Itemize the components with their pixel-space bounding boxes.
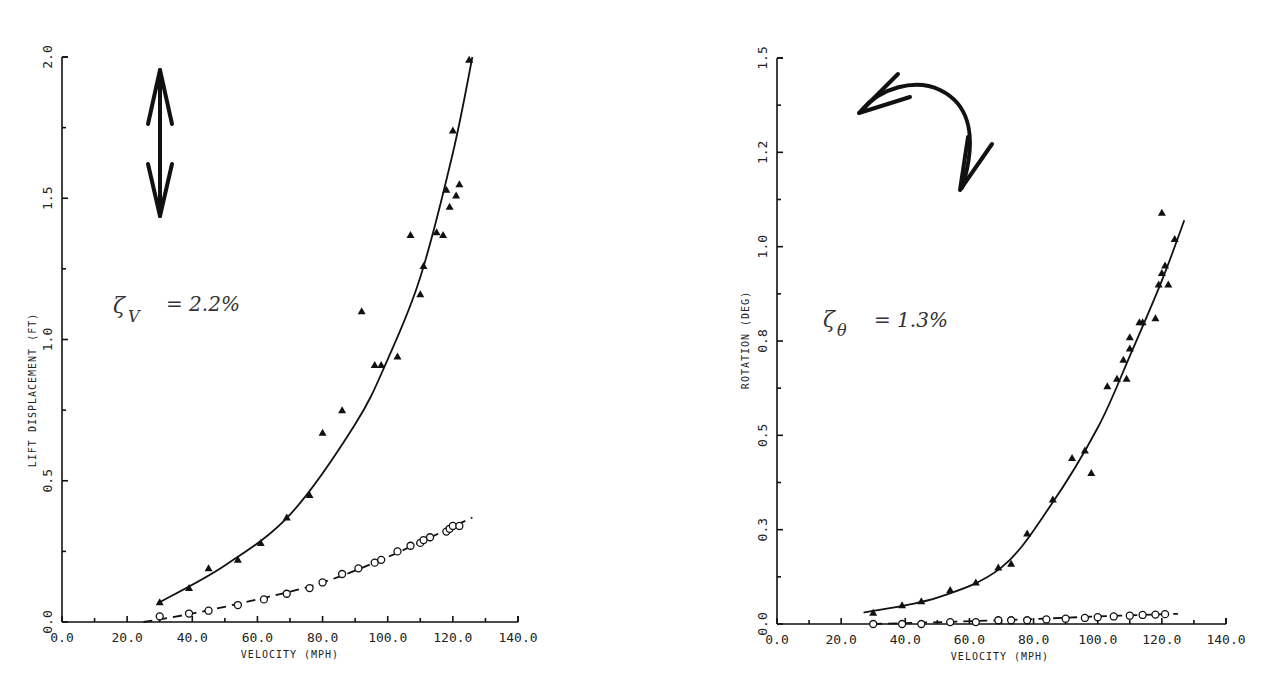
y-tick-label: 1.5 (755, 46, 770, 69)
right-damping-annotation: ζ θ = 1.3% (823, 307, 948, 340)
circle-marker (427, 534, 434, 541)
rotation-chart: 0.020.040.060.080.0100.0120.0140.0 0.00.… (740, 46, 1246, 662)
triangle-marker (1151, 314, 1159, 321)
fit-curve (160, 57, 473, 602)
triangle-marker (449, 126, 457, 133)
circle-marker (355, 565, 362, 572)
y-tick-label: 2.0 (40, 45, 55, 68)
svg-text:θ: θ (837, 321, 847, 340)
circle-marker (1008, 617, 1015, 624)
x-tick-label: 80.0 (1018, 632, 1049, 647)
right-y-axis-label: ROTATION (DEG) (740, 291, 751, 389)
y-tick-label: 1.0 (40, 328, 55, 351)
circle-marker (306, 585, 313, 592)
rotation-arrow-icon (859, 74, 992, 190)
triangle-marker (407, 231, 415, 238)
x-tick-label: 100.0 (368, 630, 407, 645)
y-tick-label: 1.5 (40, 187, 55, 210)
circle-marker (899, 621, 906, 628)
triangle-marker (1164, 280, 1172, 287)
triangle-marker (1126, 333, 1134, 340)
triangle-marker (1103, 382, 1111, 389)
circle-marker (339, 570, 346, 577)
triangle-marker (446, 203, 454, 210)
y-tick-label: 0.8 (755, 329, 770, 352)
circle-marker (1139, 611, 1146, 618)
left-x-axis-label: VELOCITY (MPH) (241, 649, 339, 660)
circle-marker (947, 619, 954, 626)
y-tick-label: 0.0 (755, 612, 770, 635)
svg-text:ζ: ζ (823, 307, 837, 332)
circle-marker (394, 548, 401, 555)
x-tick-label: 20.0 (111, 630, 142, 645)
x-tick-label: 40.0 (177, 630, 208, 645)
circle-marker (1094, 614, 1101, 621)
x-tick-label: 140.0 (1206, 632, 1245, 647)
y-tick-label: 0.0 (40, 610, 55, 633)
right-x-axis-label: VELOCITY (MPH) (951, 651, 1049, 662)
x-tick-label: 20.0 (825, 632, 856, 647)
circle-marker (378, 556, 385, 563)
y-tick-label: 1.0 (755, 235, 770, 258)
x-tick-label: 100.0 (1078, 632, 1117, 647)
circle-marker (1081, 614, 1088, 621)
circle-marker (918, 621, 925, 628)
left-y-axis-label: LIFT DISPLACEMENT (FT) (27, 313, 38, 467)
left-x-tick-labels: 0.020.040.060.080.0100.0120.0140.0 (50, 630, 537, 645)
left-y-tick-labels: 0.00.51.01.52.0 (40, 45, 55, 633)
right-axes (777, 58, 1226, 624)
triangle-marker (156, 598, 164, 605)
x-tick-label: 80.0 (307, 630, 338, 645)
x-tick-label: 120.0 (433, 630, 472, 645)
svg-text:ζ: ζ (113, 293, 127, 318)
circle-marker (283, 590, 290, 597)
right-data-series (864, 209, 1185, 628)
triangle-marker (420, 262, 428, 269)
triangle-marker (946, 586, 954, 593)
circle-marker (1043, 616, 1050, 623)
right-y-tick-labels: 0.00.30.50.81.01.21.5 (755, 46, 770, 635)
circle-marker (156, 613, 163, 620)
x-tick-label: 60.0 (242, 630, 273, 645)
x-tick-label: 40.0 (890, 632, 921, 647)
svg-text:= 2.2%: = 2.2% (166, 292, 240, 316)
vertical-double-arrow-icon (148, 70, 172, 216)
triangle-marker (1158, 209, 1166, 216)
left-damping-annotation: ζ V = 2.2% (113, 292, 240, 326)
circle-marker (319, 579, 326, 586)
triangle-marker (319, 429, 327, 436)
circle-marker (1126, 612, 1133, 619)
triangle-marker (377, 361, 385, 368)
circle-marker (1110, 613, 1117, 620)
circle-marker (1024, 617, 1031, 624)
triangle-marker (1119, 356, 1127, 363)
fit-curve (143, 517, 472, 622)
circle-marker (1062, 615, 1069, 622)
circle-marker (1162, 611, 1169, 618)
circle-marker (972, 619, 979, 626)
triangle-marker (455, 180, 463, 187)
y-tick-label: 0.5 (755, 424, 770, 447)
triangle-marker (393, 352, 401, 359)
left-data-series (143, 56, 473, 622)
left-axes (62, 57, 518, 622)
x-tick-label: 120.0 (1142, 632, 1181, 647)
triangle-marker (416, 290, 424, 297)
fit-curve (864, 220, 1185, 612)
x-tick-label: 140.0 (498, 630, 537, 645)
circle-marker (995, 617, 1002, 624)
triangle-marker (452, 191, 460, 198)
circle-marker (456, 522, 463, 529)
circle-marker (186, 610, 193, 617)
triangle-marker (205, 564, 213, 571)
circle-marker (234, 602, 241, 609)
lift-displacement-chart: 0.020.040.060.080.0100.0120.0140.0 0.00.… (27, 45, 538, 660)
circle-marker (1152, 611, 1159, 618)
svg-text:V: V (128, 307, 141, 326)
triangle-marker (338, 406, 346, 413)
circle-marker (407, 542, 414, 549)
triangle-marker (1087, 469, 1095, 476)
x-tick-label: 60.0 (954, 632, 985, 647)
triangle-marker (1123, 375, 1131, 382)
triangle-marker (371, 361, 379, 368)
